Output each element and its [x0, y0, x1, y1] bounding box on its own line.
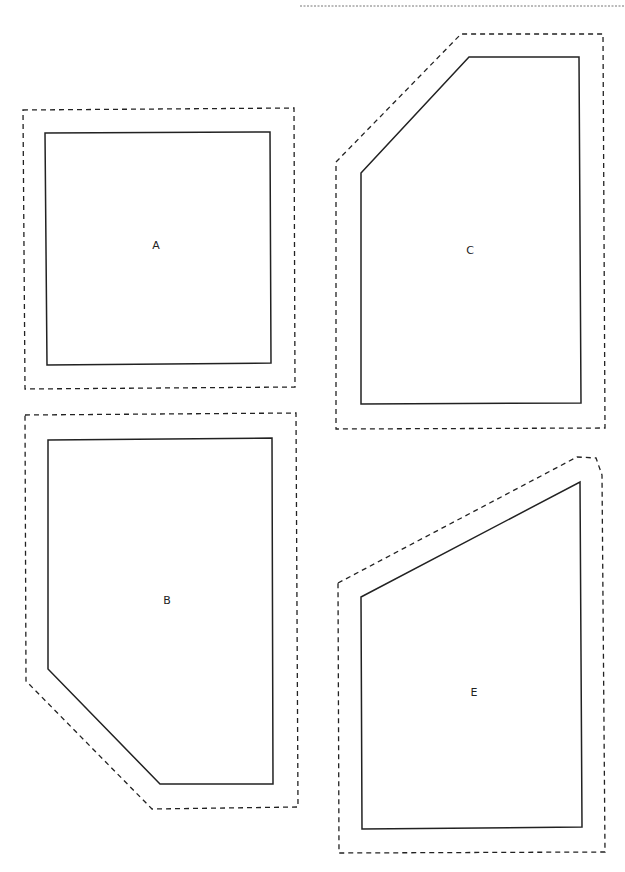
shape-e-outline: [361, 482, 582, 829]
shape-c-outline: [361, 57, 581, 404]
shape-a-label: A: [152, 239, 160, 252]
shape-b-label: B: [163, 594, 171, 607]
cut-pattern-canvas: [0, 0, 625, 872]
shape-c-label: C: [466, 244, 474, 257]
shape-e-label: E: [471, 686, 478, 699]
shape-b-outline: [48, 438, 273, 784]
